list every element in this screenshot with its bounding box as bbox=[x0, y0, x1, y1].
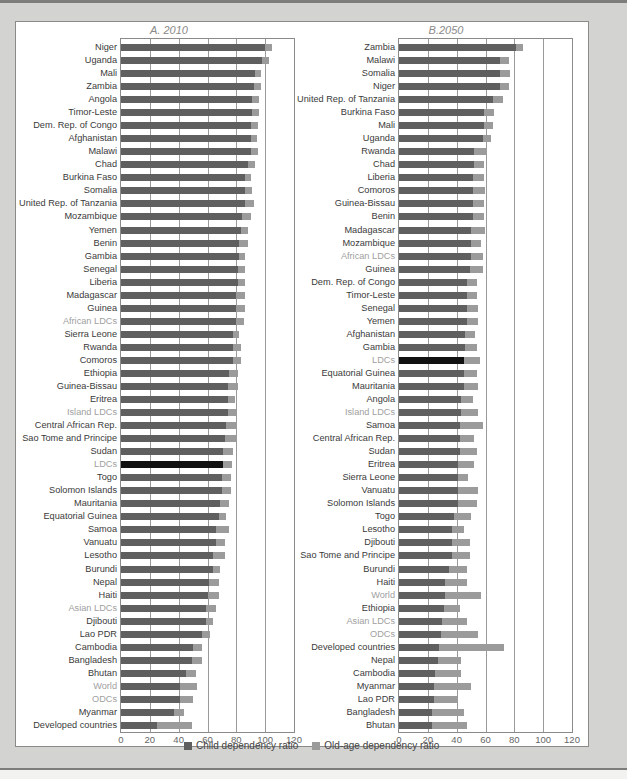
row-label: United Rep. of Tanzania bbox=[297, 93, 395, 106]
row-label: African LDCs bbox=[341, 250, 395, 263]
bar-row: Rwanda bbox=[399, 145, 574, 158]
old-age-ratio-bar bbox=[245, 187, 252, 194]
old-age-ratio-bar bbox=[239, 240, 248, 247]
child-ratio-bar bbox=[399, 539, 452, 546]
child-ratio-bar bbox=[399, 161, 474, 168]
child-ratio-bar bbox=[121, 174, 245, 181]
old-age-ratio-bar bbox=[228, 396, 235, 403]
bar-row: World bbox=[121, 680, 296, 693]
old-age-ratio-bar bbox=[238, 266, 245, 273]
row-label: Senegal bbox=[361, 302, 395, 315]
old-age-ratio-bar bbox=[483, 135, 492, 142]
child-ratio-bar bbox=[399, 396, 461, 403]
bar-row: Gambia bbox=[121, 250, 296, 263]
old-age-ratio-bar bbox=[441, 631, 478, 638]
row-label: Central African Rep. bbox=[313, 432, 395, 445]
row-label: World bbox=[371, 589, 395, 602]
row-label: Burundi bbox=[363, 563, 395, 576]
row-label: Guinea-Bissau bbox=[335, 197, 395, 210]
old-age-ratio-bar bbox=[516, 44, 523, 51]
child-ratio-bar bbox=[121, 318, 236, 325]
child-ratio-bar bbox=[399, 683, 434, 690]
old-age-ratio-bar bbox=[236, 305, 245, 312]
row-label: Togo bbox=[97, 471, 117, 484]
child-ratio-bar bbox=[121, 292, 236, 299]
child-ratio-bar bbox=[121, 148, 251, 155]
child-ratio-bar bbox=[121, 618, 206, 625]
row-label: United Rep. of Tanzania bbox=[19, 197, 117, 210]
old-age-ratio-bar bbox=[254, 83, 261, 90]
bar-row: Lao PDR bbox=[399, 693, 574, 706]
row-label: Malawi bbox=[366, 54, 395, 67]
plot-2010: NigerUgandaMaliZambiaAngolaTimor-LesteDe… bbox=[120, 38, 295, 733]
bar-row: Yemen bbox=[399, 315, 574, 328]
row-label: Niger bbox=[373, 80, 395, 93]
bar-row: Niger bbox=[399, 80, 574, 93]
child-ratio-bar bbox=[399, 526, 452, 533]
row-label: Zambia bbox=[364, 41, 395, 54]
bar-row: African LDCs bbox=[121, 315, 296, 328]
bar-row: Togo bbox=[399, 510, 574, 523]
bar-row: Malawi bbox=[121, 145, 296, 158]
old-age-ratio-bar bbox=[460, 448, 477, 455]
child-ratio-bar bbox=[399, 96, 493, 103]
bar-row: Equatorial Guinea bbox=[399, 367, 574, 380]
old-age-ratio-bar bbox=[465, 344, 477, 351]
child-ratio-bar bbox=[399, 592, 445, 599]
child-ratio-bar bbox=[121, 44, 265, 51]
x-tick-label: 120 bbox=[564, 734, 580, 745]
bar-row: Benin bbox=[121, 237, 296, 250]
old-age-ratio-bar bbox=[434, 696, 459, 703]
child-ratio-bar bbox=[121, 539, 216, 546]
bar-row: Benin bbox=[399, 210, 574, 223]
row-label: Samoa bbox=[366, 419, 395, 432]
row-label: Equatorial Guinea bbox=[321, 367, 395, 380]
bar-row: Samoa bbox=[399, 419, 574, 432]
child-ratio-bar bbox=[121, 200, 245, 207]
old-age-ratio-bar bbox=[473, 200, 485, 207]
child-ratio-bar bbox=[399, 227, 471, 234]
old-age-ratio-bar bbox=[255, 70, 261, 77]
old-age-ratio-bar bbox=[252, 96, 259, 103]
row-label: Burundi bbox=[85, 563, 117, 576]
old-age-ratio-bar bbox=[206, 605, 216, 612]
old-age-ratio-bar bbox=[442, 618, 467, 625]
row-label: Mauritania bbox=[74, 497, 117, 510]
row-label: Island LDCs bbox=[67, 406, 117, 419]
child-ratio-bar bbox=[399, 357, 464, 364]
old-age-ratio-bar bbox=[239, 253, 245, 260]
old-age-ratio-bar bbox=[241, 227, 248, 234]
row-label: Developed countries bbox=[311, 641, 395, 654]
child-ratio-bar bbox=[121, 513, 219, 520]
old-age-ratio-bar bbox=[445, 592, 481, 599]
old-age-ratio-bar bbox=[464, 357, 480, 364]
child-ratio-bar bbox=[121, 227, 241, 234]
old-age-ratio-bar bbox=[493, 96, 503, 103]
child-ratio-bar bbox=[121, 461, 223, 468]
child-ratio-bar bbox=[399, 122, 484, 129]
bar-row: Gambia bbox=[399, 341, 574, 354]
bar-row: Lesotho bbox=[399, 523, 574, 536]
child-ratio-bar bbox=[121, 526, 216, 533]
old-age-ratio-bar bbox=[208, 592, 220, 599]
old-age-ratio-bar bbox=[465, 331, 475, 338]
bar-row: Madagascar bbox=[121, 289, 296, 302]
child-ratio-bar bbox=[399, 722, 432, 729]
child-ratio-bar bbox=[121, 605, 206, 612]
child-ratio-bar bbox=[121, 670, 186, 677]
row-label: Burkina Faso bbox=[341, 106, 395, 119]
child-ratio-bar bbox=[399, 83, 500, 90]
row-label: World bbox=[93, 680, 117, 693]
old-age-ratio-bar bbox=[445, 579, 467, 586]
x-tick-label: 100 bbox=[535, 734, 551, 745]
child-ratio-bar bbox=[399, 240, 471, 247]
bar-row: Chad bbox=[121, 158, 296, 171]
child-ratio-bar bbox=[399, 266, 470, 273]
bar-row: Guinea bbox=[121, 302, 296, 315]
old-age-ratio-bar bbox=[460, 422, 483, 429]
child-ratio-bar bbox=[121, 96, 252, 103]
bar-row: African LDCs bbox=[399, 250, 574, 263]
old-age-ratio-bar bbox=[180, 696, 193, 703]
row-label: Comoros bbox=[358, 184, 395, 197]
row-label: Yemen bbox=[89, 224, 117, 237]
